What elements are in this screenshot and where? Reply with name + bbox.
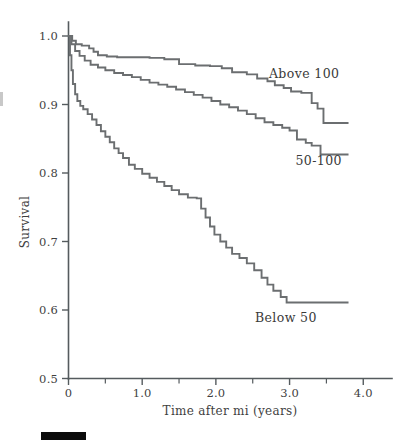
x-tick-label: 3.0	[280, 386, 299, 400]
y-tick-label: 0.8	[39, 166, 58, 180]
y-axis-tick-labels: 0.50.60.70.80.91.0	[39, 29, 58, 386]
footer-black-bar	[41, 432, 86, 440]
x-tick-label: 1.0	[133, 386, 152, 400]
x-axis-title: Time after mi (years)	[163, 404, 298, 418]
y-tick-label: 1.0	[39, 29, 58, 43]
series-label-50-100: 50-100	[295, 153, 341, 168]
series-annotation-labels: Above 10050-100Below 50	[255, 66, 342, 325]
x-axis-ticks	[69, 379, 364, 386]
y-axis-title: Survival	[18, 196, 32, 248]
y-tick-label: 0.6	[39, 303, 58, 317]
x-axis-tick-labels: 01.02.03.04.0	[65, 386, 373, 400]
x-tick-label: 4.0	[354, 386, 373, 400]
axes-group	[69, 22, 393, 379]
x-tick-label: 0	[65, 386, 73, 400]
x-tick-label: 2.0	[206, 386, 225, 400]
y-tick-label: 0.7	[39, 235, 58, 249]
survival-chart-figure: 0.50.60.70.80.91.0 01.02.03.04.0 Above 1…	[0, 0, 401, 442]
y-tick-label: 0.9	[39, 98, 58, 112]
series-label-below-50: Below 50	[255, 310, 317, 325]
y-axis-ticks	[62, 36, 69, 379]
series-label-above-100: Above 100	[268, 66, 339, 81]
left-edge-artifact	[0, 92, 3, 106]
survival-plot-svg: 0.50.60.70.80.91.0 01.02.03.04.0 Above 1…	[0, 0, 401, 442]
y-tick-label: 0.5	[39, 372, 58, 386]
